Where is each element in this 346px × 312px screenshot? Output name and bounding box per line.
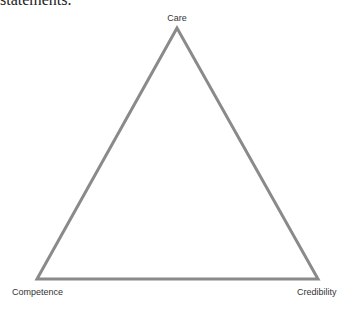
vertex-label-care: Care xyxy=(167,13,187,23)
trust-triangle-diagram xyxy=(0,0,346,312)
triangle-outline xyxy=(37,28,318,279)
vertex-label-competence: Competence xyxy=(12,287,63,297)
vertex-label-credibility: Credibility xyxy=(297,287,337,297)
